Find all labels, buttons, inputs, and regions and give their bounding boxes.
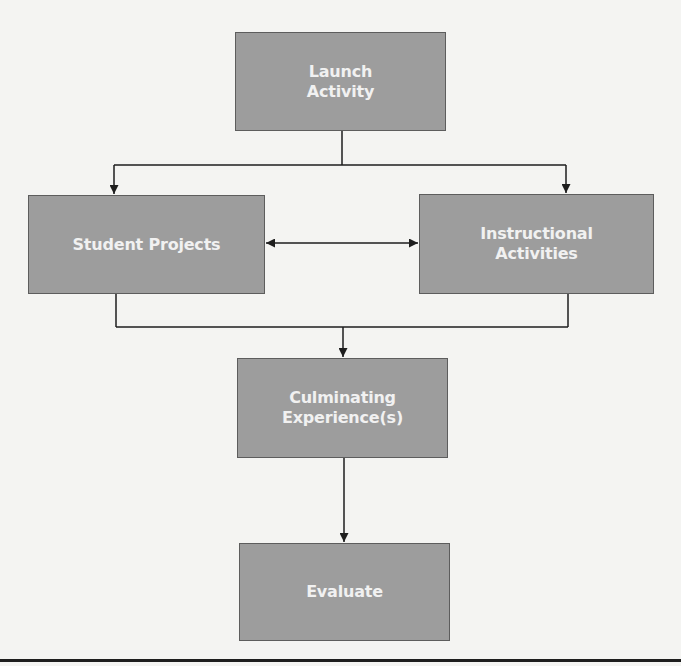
node-label: Culminating Experience(s)	[282, 388, 403, 428]
bottom-divider	[0, 659, 681, 662]
node-evaluate: Evaluate	[239, 543, 450, 641]
edge-launch-split	[114, 131, 566, 165]
node-instructional-activities: Instructional Activities	[419, 194, 654, 294]
node-label: Student Projects	[73, 235, 221, 255]
node-launch-activity: Launch Activity	[235, 32, 446, 131]
node-student-projects: Student Projects	[28, 195, 265, 294]
node-label: Evaluate	[306, 582, 383, 602]
edge-merge	[116, 294, 568, 327]
node-label: Launch Activity	[307, 62, 374, 102]
flowchart-canvas: Launch Activity Student Projects Instruc…	[0, 0, 681, 666]
node-label: Instructional Activities	[480, 224, 592, 264]
node-culminating-experiences: Culminating Experience(s)	[237, 358, 448, 458]
